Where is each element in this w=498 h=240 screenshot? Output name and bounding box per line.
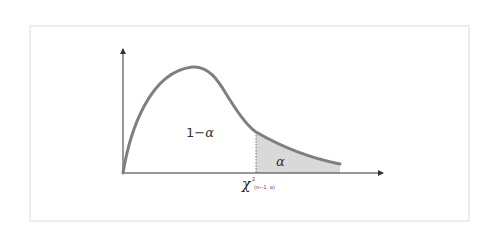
critical-value-label: χ	[241, 176, 252, 192]
chi-square-diagram: 1−α α χ 2 (n−1, α)	[0, 0, 498, 240]
critical-value-superscript: 2	[252, 176, 255, 182]
rejection-region-label: α	[276, 154, 285, 169]
critical-value-subscript: (n−1, α)	[254, 184, 275, 190]
acceptance-region-label: 1−α	[186, 125, 214, 140]
